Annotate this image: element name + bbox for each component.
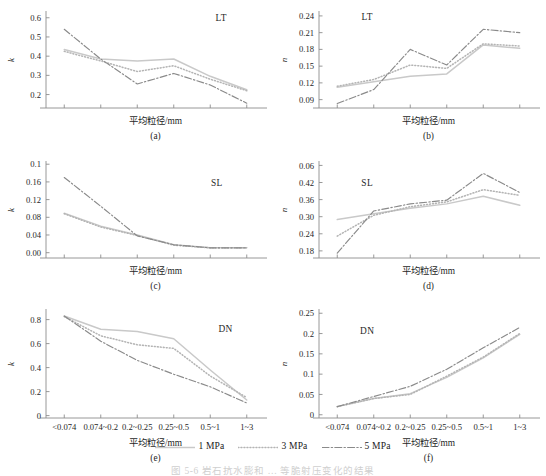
- x-tick-label: 0.074~0.2: [83, 422, 118, 432]
- y-tick-label: 0.00: [26, 248, 41, 258]
- y-tick-label: 0.21: [299, 28, 314, 38]
- x-axis-label: 平均粒径/mm: [402, 115, 456, 126]
- y-tick-label: 0.6: [30, 339, 41, 349]
- y-tick-label: 0: [37, 411, 41, 421]
- panel-title-f: DN: [360, 326, 374, 336]
- y-tick-label: 0.08: [26, 212, 41, 222]
- panel-c: 0.000.040.080.120.160.1kSL平均粒径/mm(c): [0, 150, 273, 298]
- figure-container: 0.20.30.40.50.6kLT平均粒径/mm(a) 0.090.120.1…: [0, 0, 546, 476]
- x-tick-label: 1~3: [240, 422, 253, 432]
- y-axis-label: n: [279, 57, 289, 62]
- legend-swatch-icon: [322, 443, 362, 450]
- y-tick-label: 0.06: [299, 161, 315, 171]
- y-tick-label: 0.09: [299, 95, 314, 105]
- y-axis-label: k: [6, 207, 16, 212]
- series-line-3-mpa: [337, 190, 520, 236]
- figure-caption: 图 5-6 岩石抗水膨和 … 等脆射压变化的结果: [0, 463, 546, 476]
- panel-tag-c: (c): [150, 281, 160, 292]
- y-tick-label: 0.24: [299, 11, 315, 21]
- y-tick-label: 0.24: [299, 229, 315, 239]
- legend: 1 MPa3 MPa5 MPa: [0, 441, 546, 451]
- x-tick-label: 0.5~1: [200, 422, 220, 432]
- x-tick-label: 0.25~0.5: [432, 422, 462, 432]
- series-line-1-mpa: [64, 49, 247, 89]
- y-tick-label: 0.25: [299, 308, 314, 318]
- series-line-3-mpa: [337, 44, 520, 86]
- y-tick-label: 0.2: [30, 387, 41, 397]
- chart-c: 0.000.040.080.120.160.1kSL平均粒径/mm(c): [0, 150, 273, 300]
- x-axis-label: 平均粒径/mm: [129, 265, 183, 276]
- panel-title-a: LT: [215, 13, 226, 23]
- x-tick-label: 0.25~0.5: [159, 422, 189, 432]
- chart-b: 0.090.120.150.180.210.24nLT平均粒径/mm(b): [273, 0, 546, 150]
- legend-item-1-mpa: 1 MPa: [155, 441, 224, 451]
- y-tick-label: 0.15: [299, 349, 314, 359]
- y-axis-label: n: [279, 207, 289, 212]
- y-tick-label: 0.16: [26, 177, 42, 187]
- panel-grid: 0.20.30.40.50.6kLT平均粒径/mm(a) 0.090.120.1…: [0, 0, 546, 298]
- chart-d: 0.180.240.300.360.420.06nSL平均粒径/mm(d): [273, 150, 546, 300]
- y-axis-label: k: [6, 57, 16, 62]
- series-line-5-mpa: [337, 29, 520, 103]
- series-line-5-mpa: [64, 177, 247, 247]
- panel-tag-a: (a): [150, 131, 160, 142]
- y-tick-label: 0.2: [30, 90, 41, 100]
- y-tick-label: 0.6: [30, 13, 41, 23]
- y-axis-label: n: [279, 361, 289, 366]
- panel-title-b: LT: [361, 12, 372, 22]
- series-line-1-mpa: [64, 213, 247, 248]
- y-tick-label: 0.1: [303, 369, 314, 379]
- y-tick-label: 0.42: [299, 178, 314, 188]
- legend-swatch-icon: [238, 443, 278, 450]
- y-tick-label: 0.4: [30, 51, 41, 61]
- y-tick-label: 0.4: [30, 363, 41, 373]
- x-axis-label: 平均粒径/mm: [402, 265, 456, 276]
- y-tick-label: 0.12: [26, 195, 41, 205]
- y-tick-label: 0.1: [30, 159, 41, 169]
- series-line-3-mpa: [64, 214, 247, 248]
- legend-item-5-mpa: 5 MPa: [322, 441, 391, 451]
- y-tick-label: 0.2: [303, 329, 314, 339]
- x-tick-label: <0.074: [325, 422, 350, 432]
- chart-a: 0.20.30.40.50.6kLT平均粒径/mm(a): [0, 0, 273, 150]
- x-tick-label: 0.5~1: [473, 422, 493, 432]
- legend-swatch-icon: [155, 443, 195, 450]
- y-tick-label: 0.15: [299, 61, 314, 71]
- y-tick-label: 0.8: [30, 315, 41, 325]
- legend-label: 5 MPa: [365, 441, 391, 451]
- panel-title-e: DN: [218, 324, 232, 334]
- x-tick-label: 0.2~0.25: [122, 422, 152, 432]
- x-tick-label: 0.2~0.25: [395, 422, 425, 432]
- series-line-5-mpa: [64, 29, 247, 103]
- y-tick-label: 0.5: [30, 32, 41, 42]
- y-tick-label: 0: [310, 410, 314, 420]
- panel-tag-b: (b): [423, 131, 434, 142]
- panel-b: 0.090.120.150.180.210.24nLT平均粒径/mm(b): [273, 0, 546, 150]
- y-tick-label: 0.18: [299, 246, 314, 256]
- panel-tag-d: (d): [423, 281, 434, 292]
- y-tick-label: 0.30: [299, 212, 314, 222]
- x-tick-label: 0.074~0.2: [356, 422, 391, 432]
- x-tick-label: 1~3: [513, 422, 526, 432]
- series-line-3-mpa: [337, 334, 520, 407]
- legend-label: 3 MPa: [281, 441, 307, 451]
- legend-label: 1 MPa: [198, 441, 224, 451]
- panel-d: 0.180.240.300.360.420.06nSL平均粒径/mm(d): [273, 150, 546, 298]
- y-axis-label: k: [6, 361, 16, 366]
- y-tick-label: 0.04: [26, 230, 42, 240]
- series-line-1-mpa: [337, 334, 520, 406]
- series-line-1-mpa: [337, 196, 520, 219]
- panel-a: 0.20.30.40.50.6kLT平均粒径/mm(a): [0, 0, 273, 150]
- legend-item-3-mpa: 3 MPa: [238, 441, 307, 451]
- series-line-5-mpa: [337, 327, 520, 406]
- y-tick-label: 0.12: [299, 78, 314, 88]
- x-axis-label: 平均粒径/mm: [129, 115, 183, 126]
- y-tick-label: 0.36: [299, 195, 315, 205]
- y-tick-label: 0.18: [299, 44, 314, 54]
- y-tick-label: 0.05: [299, 390, 314, 400]
- panel-title-c: SL: [211, 178, 223, 188]
- panel-title-d: SL: [361, 178, 373, 188]
- y-tick-label: 0.3: [30, 70, 41, 80]
- x-tick-label: <0.074: [52, 422, 77, 432]
